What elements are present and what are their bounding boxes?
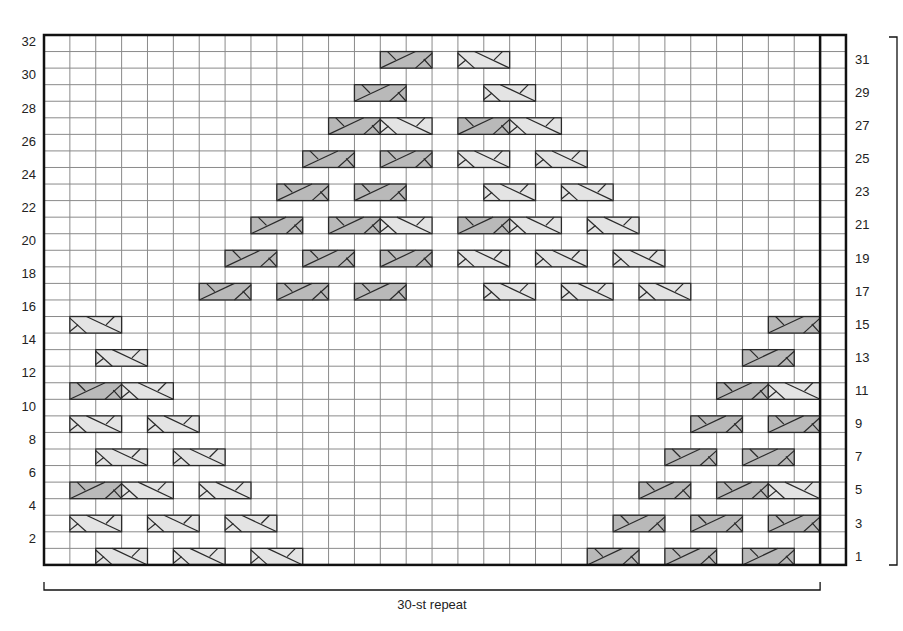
left-cross-cable	[484, 85, 536, 102]
right-cross-cable	[768, 317, 820, 334]
repeat-label: 30-st repeat	[0, 597, 864, 612]
right-cross-cable	[329, 217, 381, 234]
row-number-right: 13	[855, 350, 869, 365]
right-cross-cable	[199, 283, 251, 300]
right-cross-cable	[742, 350, 794, 367]
row-number-left: 14	[0, 332, 36, 347]
left-cross-cable	[96, 449, 148, 466]
right-cross-cable	[717, 383, 769, 400]
left-cross-cable	[587, 217, 639, 234]
left-cross-cable	[122, 383, 174, 400]
right-cross-cable	[303, 151, 355, 168]
right-cross-cable	[380, 151, 432, 168]
row-number-left: 28	[0, 101, 36, 116]
cable-stitches	[70, 52, 820, 565]
left-cross-cable	[225, 515, 277, 532]
left-cross-cable	[458, 250, 510, 267]
row-number-left: 16	[0, 299, 36, 314]
right-cross-cable	[458, 118, 510, 135]
left-cross-cable	[458, 151, 510, 168]
row-number-left: 12	[0, 365, 36, 380]
left-cross-cable	[458, 52, 510, 69]
row-number-right: 31	[855, 52, 869, 67]
left-cross-cable	[639, 283, 691, 300]
row-number-left: 6	[0, 465, 36, 480]
row-number-left: 30	[0, 67, 36, 82]
right-cross-cable	[380, 250, 432, 267]
left-cross-cable	[70, 515, 122, 532]
row-number-right: 3	[855, 516, 862, 531]
right-cross-cable	[251, 217, 303, 234]
right-cross-cable	[225, 250, 277, 267]
repeat-bracket-bottom	[44, 582, 820, 590]
right-cross-cable	[70, 482, 122, 499]
row-number-right: 25	[855, 151, 869, 166]
right-cross-cable	[665, 548, 717, 565]
right-cross-cable	[639, 482, 691, 499]
right-cross-cable	[277, 283, 329, 300]
left-cross-cable	[561, 283, 613, 300]
row-number-right: 19	[855, 251, 869, 266]
right-cross-cable	[354, 283, 406, 300]
right-cross-cable	[303, 250, 355, 267]
left-cross-cable	[70, 416, 122, 433]
right-cross-cable	[329, 118, 381, 135]
row-number-left: 4	[0, 498, 36, 513]
row-number-right: 21	[855, 217, 869, 232]
left-cross-cable	[147, 515, 199, 532]
row-number-left: 10	[0, 399, 36, 414]
right-cross-cable	[380, 52, 432, 69]
right-cross-cable	[768, 515, 820, 532]
left-cross-cable	[173, 449, 225, 466]
left-cross-cable	[536, 151, 588, 168]
left-cross-cable	[613, 250, 665, 267]
knitting-chart	[0, 0, 903, 631]
row-number-right: 5	[855, 482, 862, 497]
right-cross-cable	[665, 449, 717, 466]
left-cross-cable	[251, 548, 303, 565]
left-cross-cable	[380, 118, 432, 135]
row-number-right: 17	[855, 284, 869, 299]
right-cross-cable	[742, 449, 794, 466]
left-cross-cable	[484, 283, 536, 300]
left-cross-cable	[510, 217, 562, 234]
row-number-left: 22	[0, 200, 36, 215]
left-cross-cable	[768, 482, 820, 499]
right-cross-cable	[717, 482, 769, 499]
left-cross-cable	[199, 482, 251, 499]
left-cross-cable	[380, 217, 432, 234]
row-number-left: 8	[0, 432, 36, 447]
row-number-right: 15	[855, 317, 869, 332]
row-number-left: 32	[0, 34, 36, 49]
left-cross-cable	[768, 383, 820, 400]
row-number-right: 1	[855, 549, 862, 564]
row-number-right: 29	[855, 85, 869, 100]
right-cross-cable	[587, 548, 639, 565]
row-number-left: 18	[0, 266, 36, 281]
left-cross-cable	[147, 416, 199, 433]
right-cross-cable	[768, 416, 820, 433]
right-cross-cable	[458, 217, 510, 234]
right-cross-cable	[277, 184, 329, 201]
right-cross-cable	[354, 184, 406, 201]
right-cross-cable	[70, 383, 122, 400]
left-cross-cable	[173, 548, 225, 565]
right-cross-cable	[354, 85, 406, 102]
row-number-right: 23	[855, 184, 869, 199]
left-cross-cable	[510, 118, 562, 135]
left-cross-cable	[536, 250, 588, 267]
row-number-left: 20	[0, 233, 36, 248]
row-number-right: 27	[855, 118, 869, 133]
right-cross-cable	[691, 416, 743, 433]
left-cross-cable	[122, 482, 174, 499]
repeat-bracket-right	[889, 37, 897, 565]
right-cross-cable	[742, 548, 794, 565]
left-cross-cable	[96, 548, 148, 565]
left-cross-cable	[70, 317, 122, 334]
right-cross-cable	[691, 515, 743, 532]
row-number-right: 11	[855, 383, 869, 398]
left-cross-cable	[484, 184, 536, 201]
row-number-right: 9	[855, 416, 862, 431]
row-number-left: 2	[0, 531, 36, 546]
row-number-left: 24	[0, 167, 36, 182]
